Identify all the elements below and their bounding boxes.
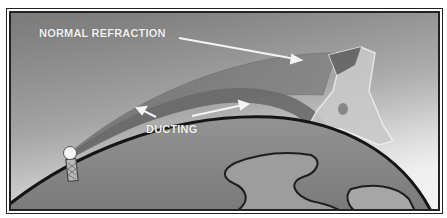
diagram-frame: NORMAL REFRACTION DUCTING: [6, 8, 443, 214]
ducting-label: DUCTING: [146, 123, 198, 135]
propagation-diagram: [11, 13, 440, 211]
diagram-canvas: NORMAL REFRACTION DUCTING: [9, 11, 440, 211]
normal-refraction-label: NORMAL REFRACTION: [39, 27, 166, 39]
